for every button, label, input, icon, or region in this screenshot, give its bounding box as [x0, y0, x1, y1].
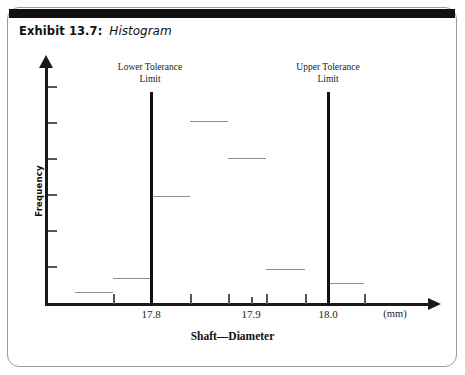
- x-tick-label: 17.8: [121, 308, 181, 320]
- y-axis-tick: [48, 266, 57, 268]
- y-axis-tick: [48, 230, 57, 232]
- histogram-bar: [228, 158, 266, 159]
- x-axis-tick: [190, 294, 192, 304]
- x-axis-unit-label: (mm): [370, 308, 420, 319]
- x-axis-tick: [364, 294, 366, 304]
- x-axis-tick-minor: [251, 297, 253, 304]
- x-axis-tick: [266, 294, 268, 304]
- histogram-bar: [190, 121, 228, 122]
- y-axis-line: [45, 66, 48, 306]
- upper-tolerance-label-line1: Upper Tolerance: [268, 61, 388, 73]
- upper-tolerance-label-line2: Limit: [268, 73, 388, 85]
- histogram-bar: [266, 269, 305, 270]
- y-axis-tick: [48, 122, 57, 124]
- x-axis-arrow-icon: [428, 298, 441, 310]
- x-axis-line: [45, 303, 430, 306]
- lower-tolerance-label: Lower Tolerance Limit: [90, 61, 210, 85]
- y-axis-tick: [48, 86, 57, 88]
- figure-page: Exhibit 13.7:Histogram Frequency: [0, 0, 465, 375]
- y-axis-label: Frequency: [34, 146, 44, 236]
- x-axis-label: Shaft—Diameter: [0, 330, 465, 342]
- histogram-plot: Frequency Lower Tolerance Limit Upper To…: [0, 0, 465, 375]
- x-axis-tick: [228, 294, 230, 304]
- x-tick-label: 17.9: [221, 308, 281, 320]
- lower-tolerance-label-line1: Lower Tolerance: [90, 61, 210, 73]
- lower-tolerance-label-line2: Limit: [90, 73, 210, 85]
- upper-tolerance-line: [327, 92, 330, 306]
- histogram-bar: [151, 196, 190, 197]
- histogram-bar: [75, 292, 113, 293]
- upper-tolerance-label: Upper Tolerance Limit: [268, 61, 388, 85]
- y-axis-tick: [48, 158, 57, 160]
- x-axis-tick: [305, 294, 307, 304]
- histogram-bar: [328, 283, 364, 284]
- x-axis-tick: [113, 294, 115, 304]
- lower-tolerance-line: [150, 92, 153, 306]
- x-tick-label: 18.0: [298, 308, 358, 320]
- histogram-bar: [113, 278, 151, 279]
- y-axis-tick: [48, 194, 57, 196]
